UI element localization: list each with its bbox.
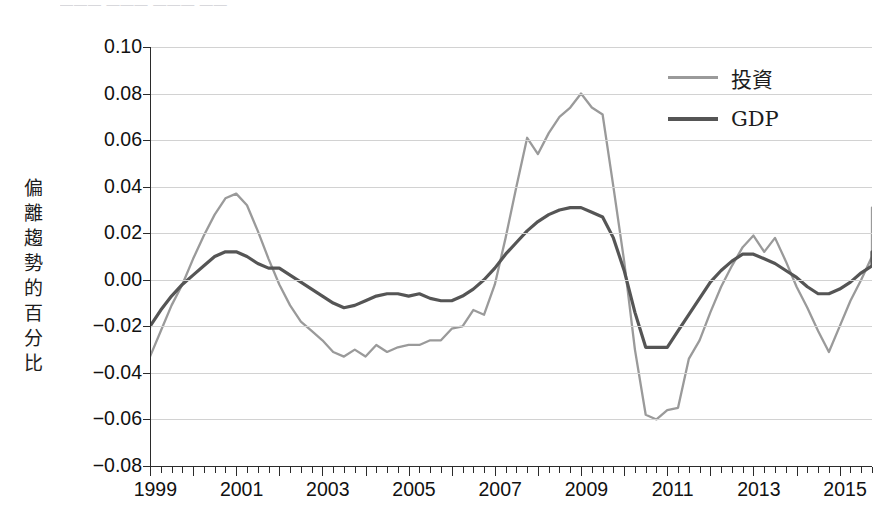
x-axis-tick-major [624, 467, 625, 476]
legend-item[interactable]: GDP [668, 98, 838, 139]
gridline [150, 326, 872, 327]
x-axis-tick-major [840, 467, 841, 476]
y-axis-title-char: 離 [16, 201, 50, 226]
x-axis-tick-minor [678, 467, 679, 473]
x-axis-tick-minor [473, 467, 474, 473]
x-axis-tick-minor [258, 467, 259, 473]
x-axis-tick-major [753, 467, 754, 476]
y-axis-tick-label: 0.02 [56, 223, 142, 243]
x-axis-tick-minor [441, 467, 442, 473]
y-axis-tick [143, 466, 151, 467]
x-axis-tick-minor [570, 467, 571, 473]
x-axis-tick-minor [559, 467, 560, 473]
x-axis-tick-label: 2009 [541, 478, 631, 500]
x-axis-tick-major [409, 467, 410, 476]
legend-swatch-line-icon [668, 117, 718, 121]
x-axis-tick-major [366, 467, 367, 476]
x-axis-tick-minor [656, 467, 657, 473]
x-axis-tick-minor [172, 467, 173, 473]
x-axis-tick-label: 2007 [455, 478, 545, 500]
x-axis-tick-major [279, 467, 280, 476]
x-axis-tick-label: 2003 [283, 478, 373, 500]
x-axis-tick-minor [829, 467, 830, 473]
x-axis-tick-minor [430, 467, 431, 473]
y-axis-title-char: 比 [16, 351, 50, 376]
x-axis-tick-major [193, 467, 194, 476]
y-axis-tick [143, 140, 151, 141]
y-axis-tick-label: 0.04 [56, 177, 142, 197]
x-axis-tick-minor [646, 467, 647, 473]
y-axis-title-char: 趨 [16, 226, 50, 251]
x-axis-tick-minor [775, 467, 776, 473]
x-axis-tick-minor [613, 467, 614, 473]
chart-page: ——— ——— ——— —— 偏離趨勢的百分比 0.100.080.060.04… [0, 0, 895, 528]
y-axis-tick-label: −0.08 [56, 456, 142, 476]
x-axis-tick-minor [312, 467, 313, 473]
gridline [150, 419, 872, 420]
gridline [150, 47, 872, 48]
y-axis-tick [143, 187, 151, 188]
x-axis-tick-minor [700, 467, 701, 473]
y-axis-tick [143, 47, 151, 48]
x-axis-tick-minor [161, 467, 162, 473]
legend-item[interactable]: 投資 [668, 57, 838, 98]
x-axis-tick-minor [398, 467, 399, 473]
y-axis-title-char: 百 [16, 301, 50, 326]
y-axis-tick-label: −0.06 [56, 409, 142, 429]
y-axis-tick-label: 0.08 [56, 84, 142, 104]
gridline [150, 187, 872, 188]
x-axis-tick-minor [344, 467, 345, 473]
x-axis-tick-minor [215, 467, 216, 473]
x-axis-tick-minor [419, 467, 420, 473]
x-axis-tick-minor [387, 467, 388, 473]
gridline [150, 280, 872, 281]
x-axis-tick-major [538, 467, 539, 476]
x-axis-tick-minor [818, 467, 819, 473]
legend-item-label: GDP [731, 107, 779, 131]
y-axis-line [150, 47, 151, 467]
x-axis-tick-minor [786, 467, 787, 473]
x-axis-tick-minor [592, 467, 593, 473]
x-axis-tick-minor [182, 467, 183, 473]
y-axis-title-char: 分 [16, 326, 50, 351]
gridline [150, 140, 872, 141]
gridline [150, 373, 872, 374]
x-axis-tick-major [581, 467, 582, 476]
x-axis-tick-minor [872, 467, 873, 473]
x-axis-tick-minor [301, 467, 302, 473]
x-axis-tick-minor [204, 467, 205, 473]
x-axis-tick-major [150, 467, 151, 476]
y-axis-tick-label: 0.06 [56, 130, 142, 150]
x-axis-tick-minor [269, 467, 270, 473]
y-axis-title-char: 的 [16, 276, 50, 301]
x-axis-tick-minor [376, 467, 377, 473]
x-axis-tick-major [710, 467, 711, 476]
x-axis-tick-minor [355, 467, 356, 473]
x-axis-tick-minor [807, 467, 808, 473]
x-axis-tick-label: 2015 [800, 478, 890, 500]
x-axis-tick-minor [247, 467, 248, 473]
y-axis-tick [143, 94, 151, 95]
x-axis-tick-minor [689, 467, 690, 473]
y-axis-tick-label: −0.04 [56, 363, 142, 383]
x-axis-tick-minor [603, 467, 604, 473]
x-axis-tick-minor [850, 467, 851, 473]
y-axis-tick-label: 0.10 [56, 37, 142, 57]
x-axis-tick-major [452, 467, 453, 476]
x-axis-tick-label: 2005 [369, 478, 459, 500]
x-axis-tick-minor [225, 467, 226, 473]
x-axis-tick-minor [290, 467, 291, 473]
y-axis-tick [143, 233, 151, 234]
x-axis-tick-label: 1999 [110, 478, 200, 500]
x-axis-tick-major [667, 467, 668, 476]
x-axis-tick-minor [463, 467, 464, 473]
y-axis-title-char: 偏 [16, 176, 50, 201]
x-axis-tick-minor [333, 467, 334, 473]
y-axis-tick [143, 373, 151, 374]
x-axis-tick-minor [732, 467, 733, 473]
legend-swatch-line-icon [668, 76, 718, 79]
x-axis-tick-label: 2011 [628, 478, 718, 500]
x-axis-tick-minor [764, 467, 765, 473]
legend-item-label: 投資 [731, 63, 773, 93]
y-axis-tick-label: −0.02 [56, 316, 142, 336]
